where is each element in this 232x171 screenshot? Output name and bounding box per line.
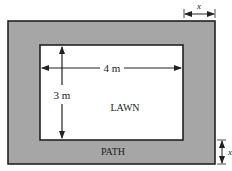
path-width-side-dimension: x [217,140,232,164]
lawn-path-diagram: 4 m 3 m LAWN PATH x x [0,0,232,171]
lawn-label: LAWN [110,102,139,113]
path-width-top-label: x [196,1,201,11]
path-width-side-label: x [227,147,232,157]
width-label: 4 m [104,62,121,74]
path-label: PATH [101,146,125,157]
height-label: 3 m [54,89,71,101]
path-width-top-dimension: x [184,1,215,18]
